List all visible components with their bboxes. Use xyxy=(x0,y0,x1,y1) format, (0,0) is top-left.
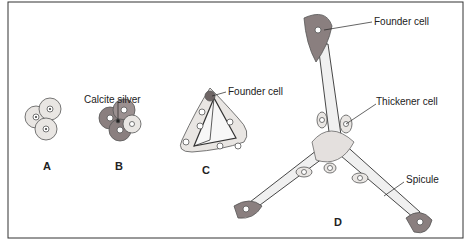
thickener-leader xyxy=(346,104,376,124)
label-founder-cell-d: Founder cell xyxy=(374,16,429,28)
label-spicule: Spicule xyxy=(406,174,439,186)
diagram-canvas xyxy=(0,0,473,248)
label-calcite-silver: Calcite silver xyxy=(84,94,141,106)
panel-a-cells xyxy=(25,98,61,140)
panel-label-c: C xyxy=(202,164,210,176)
panel-d-spicule xyxy=(250,44,420,218)
label-founder-cell-c: Founder cell xyxy=(228,86,283,98)
panel-label-d: D xyxy=(334,216,342,228)
label-thickener-cell: Thickener cell xyxy=(376,96,438,108)
panel-label-b: B xyxy=(115,160,123,172)
panel-label-a: A xyxy=(43,160,51,172)
